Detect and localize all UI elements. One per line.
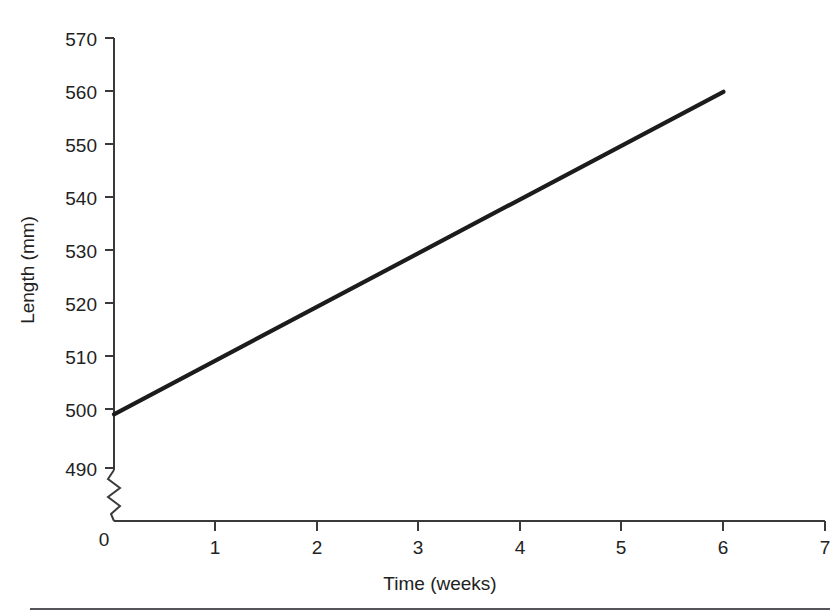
y-tick-label-560: 560: [65, 82, 97, 103]
x-tick-label-5: 5: [616, 537, 627, 558]
x-tick-label-2: 2: [312, 537, 323, 558]
x-tick-label-0: 0: [99, 529, 110, 550]
x-axis-title: Time (weeks): [383, 573, 496, 594]
y-axis-title: Length (mm): [17, 216, 38, 324]
x-tick-label-3: 3: [413, 537, 424, 558]
x-tick-label-7: 7: [820, 537, 831, 558]
y-tick-label-490: 490: [65, 459, 97, 480]
y-tick-label-510: 510: [65, 347, 97, 368]
y-tick-label-520: 520: [65, 294, 97, 315]
y-tick-label-570: 570: [65, 29, 97, 50]
y-tick-label-530: 530: [65, 241, 97, 262]
x-tick-label-1: 1: [210, 537, 221, 558]
y-tick-label-500: 500: [65, 400, 97, 421]
x-tick-label-4: 4: [515, 537, 526, 558]
x-tick-label-6: 6: [718, 537, 729, 558]
y-tick-label-540: 540: [65, 188, 97, 209]
y-tick-label-550: 550: [65, 135, 97, 156]
line-chart-figure: 570 560 550 540 530 520 510 500 490 0 1 …: [0, 0, 839, 616]
chart-background: [0, 0, 839, 616]
